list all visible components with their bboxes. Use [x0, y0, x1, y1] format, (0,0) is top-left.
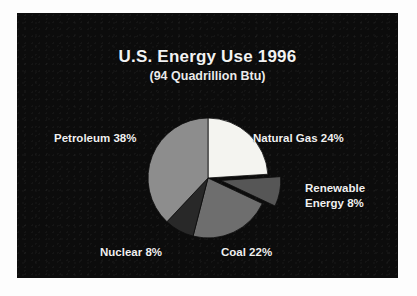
pie-label-coal: Coal 22%: [221, 245, 272, 259]
pie-label-petroleum: Petroleum 38%: [54, 131, 136, 145]
pie-chart-svg: [17, 13, 398, 278]
pie-slice-natural-gas: [208, 118, 268, 178]
pie-chart: Petroleum 38% Natural Gas 24% RenewableE…: [17, 13, 398, 278]
pie-label-natural-gas: Natural Gas 24%: [253, 131, 344, 145]
pie-label-renewable-line2: Energy 8%: [305, 197, 364, 209]
pie-label-renewable-line1: Renewable: [305, 182, 365, 194]
page-background: U.S. Energy Use 1996 (94 Quadrillion Btu…: [0, 0, 417, 296]
presentation-slide: U.S. Energy Use 1996 (94 Quadrillion Btu…: [17, 13, 398, 278]
pie-label-nuclear: Nuclear 8%: [100, 245, 162, 259]
pie-label-renewable-energy: RenewableEnergy 8%: [305, 181, 391, 211]
